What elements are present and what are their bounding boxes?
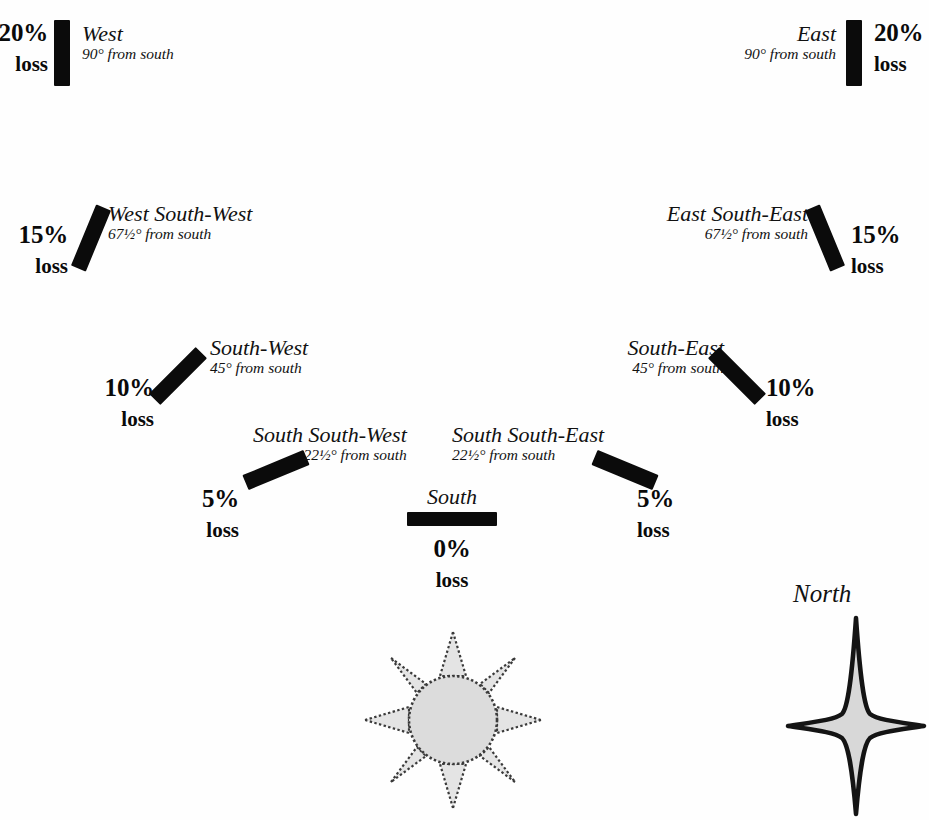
direction-angle-sse: 22½° from south <box>452 447 604 463</box>
sun-icon <box>363 630 543 810</box>
loss-readout-west: 20% loss <box>0 20 48 75</box>
panel-bar-south <box>407 512 497 526</box>
loss-readout-ssw: 5% loss <box>165 486 239 541</box>
compass-star-svg <box>786 616 926 816</box>
direction-name-ssw: South South-West <box>253 424 407 447</box>
direction-angle-ssw: 22½° from south <box>253 447 407 463</box>
loss-readout-ese: 15% loss <box>851 222 929 277</box>
loss-percent-east: 20% <box>874 20 929 45</box>
direction-angle-wsw: 67½° from south <box>108 226 252 242</box>
direction-name-se: South-East <box>540 337 724 360</box>
direction-name-west: West <box>82 23 174 46</box>
orientation-loss-diagram: 20% loss West 90° from south East 90° fr… <box>0 0 929 820</box>
label-block-east: East 90° from south <box>614 23 836 62</box>
loss-readout-wsw: 15% loss <box>0 222 68 277</box>
direction-angle-sw: 45° from south <box>210 360 308 376</box>
loss-word-se: loss <box>766 409 846 430</box>
direction-name-south: South <box>407 486 497 509</box>
label-block-ssw: South South-West 22½° from south <box>253 424 407 463</box>
loss-readout-east: 20% loss <box>874 20 929 75</box>
compass-star-icon <box>786 616 926 816</box>
loss-word-sse: loss <box>637 520 717 541</box>
panel-bar-ese <box>805 204 845 271</box>
loss-readout-se: 10% loss <box>766 375 846 430</box>
label-block-south: South <box>407 486 497 509</box>
panel-bar-sse <box>591 450 658 490</box>
direction-name-sse: South South-East <box>452 424 604 447</box>
direction-angle-ese: 67½° from south <box>586 226 808 242</box>
panel-bar-east <box>846 20 862 86</box>
label-block-west: West 90° from south <box>82 23 174 62</box>
direction-angle-se: 45° from south <box>540 360 724 376</box>
loss-readout-sw: 10% loss <box>80 375 154 430</box>
loss-word-sw: loss <box>80 409 154 430</box>
loss-percent-south: 0% <box>407 536 497 561</box>
label-block-sse: South South-East 22½° from south <box>452 424 604 463</box>
direction-name-ese: East South-East <box>586 203 808 226</box>
panel-bar-sw <box>149 347 207 405</box>
label-block-se: South-East 45° from south <box>540 337 724 376</box>
loss-word-south: loss <box>407 570 497 591</box>
panel-bar-west <box>54 20 70 86</box>
loss-percent-sw: 10% <box>80 375 154 400</box>
sun-icon-svg <box>363 630 543 810</box>
loss-readout-sse: 5% loss <box>637 486 717 541</box>
panel-bar-wsw <box>71 204 111 271</box>
loss-percent-sse: 5% <box>637 486 717 511</box>
loss-percent-ssw: 5% <box>165 486 239 511</box>
direction-angle-east: 90° from south <box>614 46 836 62</box>
label-block-sw: South-West 45° from south <box>210 337 308 376</box>
direction-name-sw: South-West <box>210 337 308 360</box>
label-block-wsw: West South-West 67½° from south <box>108 203 252 242</box>
loss-percent-ese: 15% <box>851 222 929 247</box>
loss-word-ssw: loss <box>165 520 239 541</box>
loss-percent-west: 20% <box>0 20 48 45</box>
loss-readout-south: 0% loss <box>407 536 497 591</box>
label-block-ese: East South-East 67½° from south <box>586 203 808 242</box>
direction-name-east: East <box>614 23 836 46</box>
loss-word-wsw: loss <box>0 256 68 277</box>
direction-angle-west: 90° from south <box>82 46 174 62</box>
loss-word-east: loss <box>874 54 929 75</box>
loss-percent-se: 10% <box>766 375 846 400</box>
loss-word-ese: loss <box>851 256 929 277</box>
direction-name-wsw: West South-West <box>108 203 252 226</box>
loss-percent-wsw: 15% <box>0 222 68 247</box>
compass-label-north: North <box>793 580 851 608</box>
loss-word-west: loss <box>0 54 48 75</box>
